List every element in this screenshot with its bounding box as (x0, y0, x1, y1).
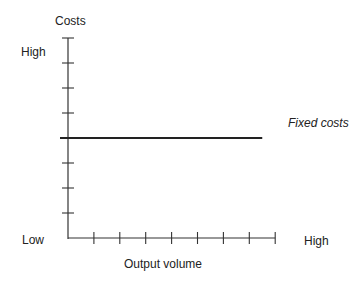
x-axis-title: Output volume (124, 257, 202, 271)
y-high-label: High (21, 45, 46, 59)
fixed-costs-label: Fixed costs (288, 116, 349, 130)
x-high-label: High (304, 234, 329, 248)
origin-low-label: Low (22, 233, 44, 247)
y-axis-title: Costs (55, 14, 86, 28)
x-axis (68, 232, 275, 244)
